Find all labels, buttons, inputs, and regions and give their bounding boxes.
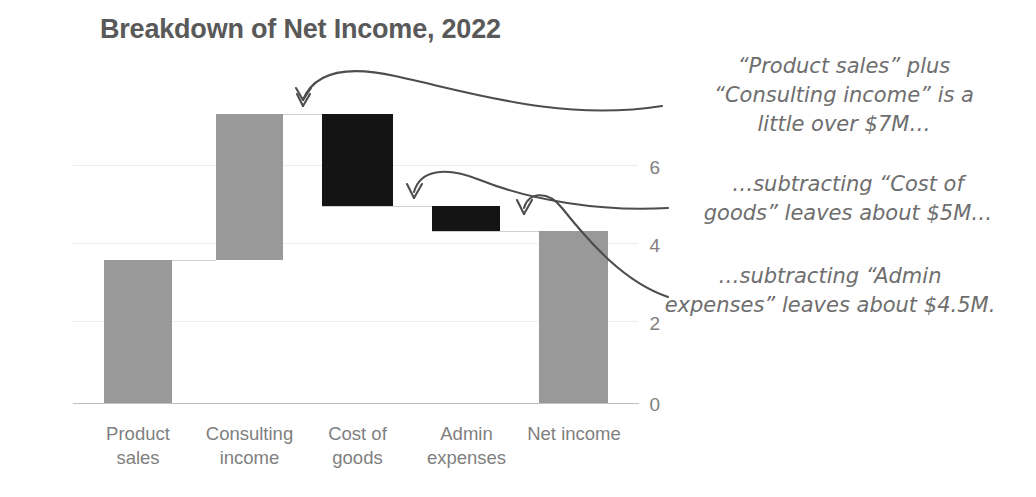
x-tick-label-product-sales: Product sales: [86, 422, 190, 470]
x-tick-line1: Admin: [412, 422, 521, 446]
y-tick-label-6: 6: [604, 158, 660, 177]
x-tick-line1: Net income: [519, 422, 629, 446]
annotation-text-3: …subtracting “Admin expenses” leaves abo…: [624, 262, 1036, 320]
y-tick-label-0: 0: [604, 395, 660, 414]
annotation-text-2: …subtracting “Cost of goods” leaves abou…: [660, 170, 1036, 228]
x-tick-line2: expenses: [412, 446, 521, 470]
bar-admin-expenses[interactable]: [432, 206, 500, 231]
connector-3: [322, 206, 432, 207]
bar-product-sales[interactable]: [104, 260, 172, 403]
bar-net-income[interactable]: [539, 231, 608, 403]
x-tick-label-cost-of-goods: Cost of goods: [306, 422, 409, 470]
x-tick-line2: goods: [306, 446, 409, 470]
x-tick-line2: sales: [86, 446, 190, 470]
annotation-text-1: “Product sales” plus “Consulting income”…: [652, 52, 1036, 139]
plot-area: 6 4 2 0 Product sales Consulting income …: [0, 0, 660, 420]
bar-cost-of-goods[interactable]: [322, 114, 393, 206]
x-tick-label-admin-expenses: Admin expenses: [412, 422, 521, 470]
x-tick-line1: Product: [86, 422, 190, 446]
x-tick-line1: Consulting: [193, 422, 306, 446]
y-tick-label-4: 4: [604, 236, 660, 255]
x-tick-line1: Cost of: [306, 422, 409, 446]
connector-4: [432, 231, 539, 232]
x-tick-label-consulting-income: Consulting income: [193, 422, 306, 470]
x-tick-label-net-income: Net income: [519, 422, 629, 446]
axis-baseline: [73, 403, 639, 404]
bar-consulting-income[interactable]: [216, 114, 283, 260]
waterfall-chart: Breakdown of Net Income, 2022 6 4 2 0 Pr…: [0, 0, 1036, 497]
x-tick-line2: income: [193, 446, 306, 470]
